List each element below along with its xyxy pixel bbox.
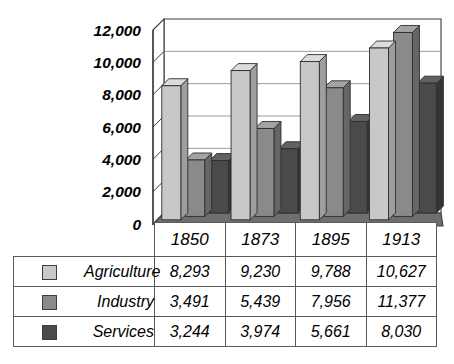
column-header-year-3: 1913	[366, 223, 437, 257]
chart-figure: 12,00010,0008,0006,0004,0002,0000 1850 1…	[0, 0, 454, 364]
legend-color-box-icon	[42, 265, 57, 280]
bar-chart-3d: 12,00010,0008,0006,0004,0002,0000	[0, 0, 454, 240]
column-header-year-1: 1873	[225, 223, 296, 257]
legend-swatch-industry	[14, 287, 85, 317]
bar-agriculture-1913	[370, 41, 396, 220]
data-table: 1850 1873 1895 1913 Agriculture 8,293 9,…	[13, 222, 437, 347]
y-axis-tick-label: 8,000	[102, 86, 141, 103]
legend-spacer-swatch	[14, 223, 85, 257]
table-row: Industry 3,491 5,439 7,956 11,377	[14, 287, 437, 317]
legend-spacer-name	[84, 223, 155, 257]
cell-industry-1895: 7,956	[296, 287, 367, 317]
column-header-year-0: 1850	[155, 223, 226, 257]
cell-industry-1850: 3,491	[155, 287, 226, 317]
bar-services-1913	[417, 76, 443, 213]
cell-agriculture-1913: 10,627	[366, 257, 437, 287]
bar-industry-1913	[393, 25, 419, 216]
y-axis-labels: 12,00010,0008,0006,0004,0002,0000	[94, 22, 142, 233]
cell-services-1873: 3,974	[225, 317, 296, 347]
y-axis-tick-label: 12,000	[94, 22, 142, 39]
series-label-agriculture: Agriculture	[84, 257, 155, 287]
cell-industry-1873: 5,439	[225, 287, 296, 317]
chart-canvas: 12,00010,0008,0006,0004,0002,0000	[0, 0, 454, 240]
bar-industry-1873	[255, 121, 281, 216]
cell-agriculture-1895: 9,788	[296, 257, 367, 287]
cell-services-1850: 3,244	[155, 317, 226, 347]
bar-industry-1895	[324, 81, 350, 217]
column-header-year-2: 1895	[296, 223, 367, 257]
legend-swatch-services	[14, 317, 85, 347]
y-axis-tick-label: 4,000	[101, 151, 141, 168]
legend-color-box-icon	[42, 295, 57, 310]
legend-swatch-agriculture	[14, 257, 85, 287]
bar-industry-1850	[186, 153, 212, 216]
bar-agriculture-1895	[300, 55, 326, 220]
series-label-services: Services	[84, 317, 155, 347]
table-row: Agriculture 8,293 9,230 9,788 10,627	[14, 257, 437, 287]
bar-agriculture-1850	[162, 79, 188, 220]
legend-color-box-icon	[42, 325, 57, 340]
y-axis-tick-label: 6,000	[102, 119, 141, 136]
y-axis-tick-label: 10,000	[94, 54, 142, 71]
cell-services-1895: 5,661	[296, 317, 367, 347]
y-axis-tick-label: 2,000	[101, 183, 141, 200]
cell-agriculture-1873: 9,230	[225, 257, 296, 287]
series-label-industry: Industry	[84, 287, 155, 317]
table-row: Services 3,244 3,974 5,661 8,030	[14, 317, 437, 347]
bar-agriculture-1873	[231, 64, 257, 220]
cell-services-1913: 8,030	[366, 317, 437, 347]
cell-industry-1913: 11,377	[366, 287, 437, 317]
table-header-row: 1850 1873 1895 1913	[14, 223, 437, 257]
cell-agriculture-1850: 8,293	[155, 257, 226, 287]
